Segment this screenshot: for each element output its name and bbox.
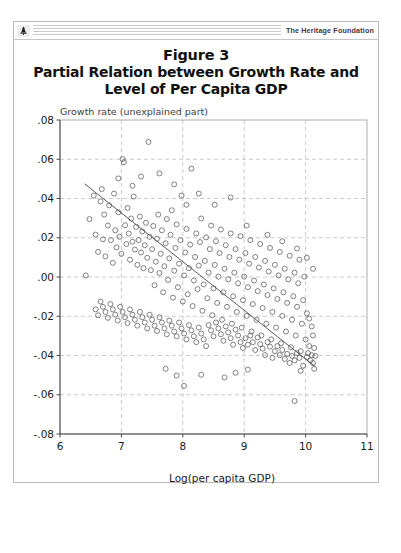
scatter-point (277, 249, 282, 254)
scatter-point (299, 321, 304, 326)
scatter-point (212, 262, 217, 267)
scatter-point (272, 349, 277, 354)
scatter-point (207, 247, 212, 252)
scatter-point (275, 296, 280, 301)
scatter-point (204, 344, 209, 349)
scatter-point (196, 325, 201, 330)
scatter-point (139, 250, 144, 255)
scatter-point (258, 342, 263, 347)
scatter-point (126, 231, 131, 236)
x-axis-tick-label: 9 (241, 440, 248, 452)
publisher-name: The Heritage Foundation (286, 26, 378, 35)
scatter-point (211, 334, 216, 339)
scatter-point (283, 329, 288, 334)
scatter-point (100, 304, 105, 309)
chart-canvas: -.08-.06-.04-.02.00.02.04.06.0867891011 … (14, 104, 378, 489)
figure-title-block: Figure 3 Partial Relation between Growth… (14, 40, 378, 98)
scatter-point (193, 254, 198, 259)
scatter-point (247, 261, 252, 266)
scatter-point (211, 286, 216, 291)
scatter-point (153, 259, 158, 264)
scatter-point (172, 182, 177, 187)
scatter-point (209, 328, 214, 333)
scatter-point (201, 337, 206, 342)
scatter-point (256, 265, 261, 270)
scatter-point (229, 321, 234, 326)
scatter-point (172, 268, 177, 273)
scatter-point (236, 281, 241, 286)
scatter-point (157, 171, 162, 176)
scatter-point (121, 160, 126, 165)
x-axis-title: Log(per capita GDP) (169, 472, 275, 484)
axis-ticks-layer: -.08-.06-.04-.02.00.02.04.06.0867891011 (34, 114, 374, 452)
scatter-point (137, 214, 142, 219)
scatter-point (226, 277, 231, 282)
scatter-point (102, 212, 107, 217)
scatter-point (277, 353, 282, 358)
scatter-point (184, 337, 189, 342)
y-axis-tick-label: .04 (37, 192, 54, 204)
scatter-point (304, 311, 309, 316)
scatter-point (226, 330, 231, 335)
scatter-point (110, 260, 115, 265)
scatter-point (286, 277, 291, 282)
scatter-point (298, 368, 303, 373)
figure-page: The Heritage Foundation Figure 3 Partial… (13, 21, 379, 483)
scatter-point (295, 304, 300, 309)
scatter-point (164, 332, 169, 337)
scatter-point (265, 340, 270, 345)
scatter-point (248, 238, 253, 243)
scatter-point (201, 282, 206, 287)
scatter-point (253, 254, 258, 259)
scatter-point (225, 304, 230, 309)
scatter-point (204, 235, 209, 240)
scatter-point (205, 296, 210, 301)
scatter-point (263, 258, 268, 263)
scatter-point (135, 323, 140, 328)
scatter-point (96, 313, 101, 318)
y-axis-tick-label: .08 (37, 114, 54, 126)
y-axis-tick-label: -.08 (34, 428, 55, 440)
scatter-point (87, 217, 92, 222)
scatter-point (174, 373, 179, 378)
y-axis-tick-label: -.06 (34, 388, 55, 400)
scatter-point (239, 325, 244, 330)
scatter-point (291, 294, 296, 299)
scatter-point (159, 320, 164, 325)
scatter-point (166, 277, 171, 282)
scatter-point (124, 242, 129, 247)
header-rule-lines (33, 25, 281, 36)
scatter-point (182, 383, 187, 388)
scatter-point (155, 236, 160, 241)
scatter-point (162, 326, 167, 331)
scatter-point (159, 228, 164, 233)
scatter-point (91, 193, 96, 198)
scatter-point (206, 323, 211, 328)
scatter-point (252, 278, 257, 283)
scatter-point (312, 346, 317, 351)
scatter-point (290, 317, 295, 322)
scatter-point (310, 333, 315, 338)
scatter-point (125, 321, 130, 326)
scatter-point (140, 315, 145, 320)
scatter-point (169, 208, 174, 213)
scatter-point (220, 317, 225, 322)
scatter-point (285, 300, 290, 305)
scatter-point (170, 295, 175, 300)
scatter-point (145, 326, 150, 331)
scatter-point (244, 223, 249, 228)
scatter-point (199, 216, 204, 221)
scatter-point (234, 309, 239, 314)
scatter-point (240, 298, 245, 303)
scatter-point (114, 245, 119, 250)
scatter-point (202, 258, 207, 263)
scatter-point (148, 268, 153, 273)
scatter-point (223, 243, 228, 248)
scatter-point (270, 309, 275, 314)
scatter-point (191, 278, 196, 283)
scatter-point (280, 313, 285, 318)
x-axis-tick-label: 7 (118, 440, 125, 452)
figure-number: Figure 3 (14, 47, 378, 64)
scatter-point (200, 308, 205, 313)
scatter-point (132, 317, 137, 322)
